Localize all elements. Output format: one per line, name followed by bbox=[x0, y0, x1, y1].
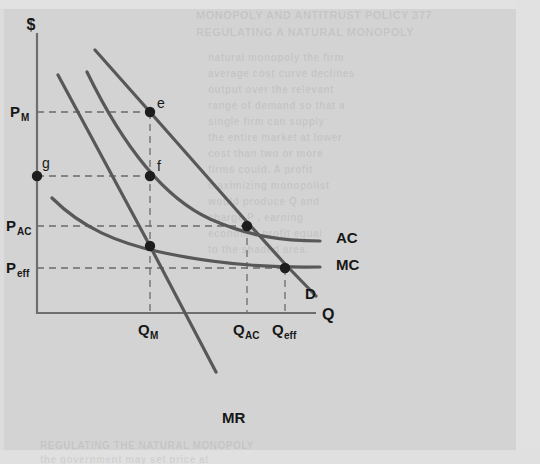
point-e bbox=[145, 107, 155, 117]
x-tick-qeff: Q eff bbox=[272, 321, 297, 341]
svg-text:eff: eff bbox=[17, 268, 30, 279]
natural-monopoly-chart: $ Q P M P AC P eff Q M Q AC Q eff e f bbox=[0, 0, 540, 464]
svg-text:Q: Q bbox=[233, 321, 245, 338]
svg-text:M: M bbox=[21, 112, 29, 123]
point-label-e: e bbox=[157, 95, 165, 111]
average-cost-curve bbox=[87, 72, 320, 241]
x-tick-qm: Q M bbox=[138, 321, 158, 341]
curve-label-demand: D bbox=[305, 285, 316, 302]
y-axis-label: $ bbox=[27, 16, 36, 33]
y-tick-peff: P eff bbox=[6, 259, 30, 279]
point-ac-equilibrium bbox=[242, 221, 252, 231]
curve-label-average-cost: AC bbox=[336, 229, 358, 246]
point-f bbox=[145, 171, 155, 181]
point-label-f: f bbox=[157, 158, 161, 174]
svg-text:P: P bbox=[10, 103, 20, 120]
x-tick-qac: Q AC bbox=[233, 321, 259, 341]
x-axis-label: Q bbox=[322, 306, 334, 323]
svg-text:Q: Q bbox=[138, 321, 150, 338]
svg-text:AC: AC bbox=[17, 226, 31, 237]
curve-label-marginal-revenue: MR bbox=[222, 409, 245, 426]
svg-text:P: P bbox=[6, 217, 16, 234]
svg-text:P: P bbox=[6, 259, 16, 276]
svg-text:Q: Q bbox=[272, 321, 284, 338]
svg-text:eff: eff bbox=[284, 330, 297, 341]
point-g bbox=[32, 171, 42, 181]
curve-label-marginal-cost: MC bbox=[336, 256, 359, 273]
point-label-g: g bbox=[42, 155, 50, 171]
svg-text:M: M bbox=[150, 330, 158, 341]
y-tick-pm: P M bbox=[10, 103, 29, 123]
point-efficient-equilibrium bbox=[280, 263, 290, 273]
point-mr-equals-mc bbox=[145, 241, 155, 251]
y-tick-pac: P AC bbox=[6, 217, 31, 237]
svg-text:AC: AC bbox=[245, 330, 259, 341]
figure-canvas: MONOPOLY AND ANTITRUST POLICY 377REGULAT… bbox=[0, 0, 540, 464]
